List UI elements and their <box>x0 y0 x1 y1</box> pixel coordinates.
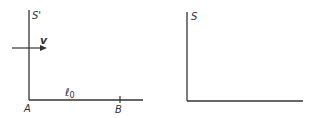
point-b-label: B <box>115 104 122 115</box>
length-subscript: 0 <box>70 91 75 100</box>
length-label: ℓ0 <box>64 86 75 100</box>
frame-s: S <box>187 11 303 101</box>
frame-s-label: S <box>191 11 198 22</box>
point-a-label: A <box>23 103 31 114</box>
relativity-diagram: S' v ℓ0 A B S <box>0 0 313 118</box>
velocity-label: v <box>40 34 48 47</box>
frame-s-prime-label: S' <box>32 10 41 21</box>
frame-s-prime: S' v ℓ0 A B <box>12 10 143 115</box>
